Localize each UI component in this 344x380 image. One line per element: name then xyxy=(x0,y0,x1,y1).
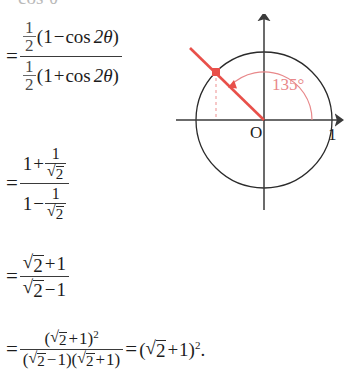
square-root: √ 2 xyxy=(77,351,94,369)
paren-close: ) xyxy=(113,27,119,47)
square-root: √ 2 xyxy=(23,278,44,300)
fraction-2-numerator: 1 + 1 √ 2 xyxy=(20,144,70,183)
equation-step-2: = 1 + 1 √ 2 1 − xyxy=(6,144,69,224)
radical-symbol: √ xyxy=(50,330,59,345)
radicand: 2 xyxy=(37,353,46,370)
square-root: √ 2 xyxy=(145,339,166,361)
equals-sign-5: = xyxy=(125,339,137,360)
equation-step-1: = 1 2 ( 1 − cos 2θ ) 1 2 xyxy=(6,18,122,94)
final-result: ( √ 2 + 1 ) 2 . xyxy=(139,339,205,361)
operator-plus: + xyxy=(53,66,66,86)
term-one: 1 xyxy=(23,194,33,214)
term-one: 1 xyxy=(57,280,67,300)
one-half-denominator: 2 xyxy=(25,76,34,93)
radical-symbol: √ xyxy=(77,351,86,366)
square-root: √ 2 xyxy=(29,351,46,369)
inner-denominator: √ 2 xyxy=(45,164,66,182)
inner-fraction-one-over-root-two: 1 √ 2 xyxy=(45,185,66,222)
operator-minus: − xyxy=(44,280,57,300)
equals-sign-1: = xyxy=(6,46,18,67)
fraction-2-denominator: 1 − 1 √ 2 xyxy=(20,184,70,223)
inner-fraction-one-over-root-two: 1 √ 2 xyxy=(45,145,66,182)
operator-plus: + xyxy=(67,330,79,348)
equals-sign-2: = xyxy=(6,173,18,194)
operator-minus: − xyxy=(46,351,58,369)
radicand: 2 xyxy=(156,340,167,361)
radical-symbol: √ xyxy=(23,278,33,295)
origin-label: O xyxy=(250,123,262,142)
paren-close: ) xyxy=(189,340,195,360)
square-root: √ 2 xyxy=(50,330,67,348)
equation-step-4: = ( √ 2 + 1 ) 2 ( √ 2 − 1 xyxy=(6,329,205,371)
inner-denominator: √ 2 xyxy=(45,204,66,222)
radicand: 2 xyxy=(33,280,44,301)
fraction-4-denominator: ( √ 2 − 1 ) ( √ 2 + 1 ) xyxy=(20,350,123,370)
fraction-1-denominator: 1 2 ( 1 + cos 2θ ) xyxy=(20,57,122,95)
radicand: 2 xyxy=(56,166,65,183)
equals-sign-4: = xyxy=(6,339,18,360)
term-one: 1 xyxy=(57,351,66,369)
fraction-2: 1 + 1 √ 2 1 − 1 xyxy=(20,144,70,224)
unit-circle-diagram: O 1 135° xyxy=(176,14,344,212)
term-one: 1 xyxy=(179,340,189,360)
inner-numerator: 1 xyxy=(50,145,62,163)
square-root: √ 2 xyxy=(47,164,64,182)
fraction-4-numerator: ( √ 2 + 1 ) 2 xyxy=(41,329,101,349)
term-one: 1 xyxy=(43,27,53,47)
operator-plus: + xyxy=(44,254,57,274)
inner-numerator: 1 xyxy=(50,185,62,203)
operator-minus: − xyxy=(53,27,66,47)
term-one: 1 xyxy=(43,66,53,86)
paren-close: ) xyxy=(113,66,119,86)
radical-symbol: √ xyxy=(145,339,155,356)
fraction-1: 1 2 ( 1 − cos 2θ ) 1 2 ( 1 + xyxy=(20,18,122,94)
operator-plus: + xyxy=(32,154,45,174)
one-half-coefficient: 1 2 xyxy=(23,19,36,55)
term-one: 1 xyxy=(23,154,33,174)
radicand: 2 xyxy=(56,206,65,223)
radicand: 2 xyxy=(33,255,44,276)
terminal-ray xyxy=(190,48,264,120)
radical-symbol: √ xyxy=(47,164,56,179)
radicand: 2 xyxy=(59,332,68,349)
operator-plus: + xyxy=(166,340,179,360)
fraction-3-numerator: √ 2 + 1 xyxy=(20,252,69,276)
equation-step-3: = √ 2 + 1 √ 2 − 1 xyxy=(6,252,69,302)
radical-symbol: √ xyxy=(23,253,33,270)
one-half-denominator: 2 xyxy=(25,37,34,54)
radicand: 2 xyxy=(86,353,95,370)
square-root: √ 2 xyxy=(23,253,44,275)
cropped-top-line: cos²θ xyxy=(18,0,58,9)
term-one: 1 xyxy=(79,330,88,348)
x-axis-unit-label: 1 xyxy=(328,125,337,144)
square-root: √ 2 xyxy=(47,204,64,222)
fraction-3-denominator: √ 2 − 1 xyxy=(20,277,69,301)
cos-argument: 2θ xyxy=(91,66,113,86)
operator-plus: + xyxy=(95,351,107,369)
one-half-coefficient: 1 2 xyxy=(23,58,36,94)
equals-sign-3: = xyxy=(6,266,18,287)
one-half-numerator: 1 xyxy=(25,58,34,75)
term-one: 1 xyxy=(106,351,115,369)
cos-argument: 2θ xyxy=(91,27,113,47)
radical-symbol: √ xyxy=(47,204,56,219)
terminal-point-marker xyxy=(212,68,220,76)
fraction-3: √ 2 + 1 √ 2 − 1 xyxy=(20,252,69,302)
cos-function: cos xyxy=(65,66,90,86)
cos-function: cos xyxy=(65,27,90,47)
period: . xyxy=(200,340,205,360)
paren-close: ) xyxy=(115,351,121,369)
one-half-numerator: 1 xyxy=(25,19,34,36)
worked-solution-figure: cos²θ = 1 2 ( 1 − cos 2θ ) 1 xyxy=(0,0,344,380)
angle-label: 135° xyxy=(272,75,304,94)
radical-symbol: √ xyxy=(29,351,38,366)
operator-minus: − xyxy=(32,194,45,214)
fraction-4: ( √ 2 + 1 ) 2 ( √ 2 − 1 ) ( xyxy=(20,329,123,371)
fraction-1-numerator: 1 2 ( 1 − cos 2θ ) xyxy=(20,18,122,56)
term-one: 1 xyxy=(57,254,67,274)
